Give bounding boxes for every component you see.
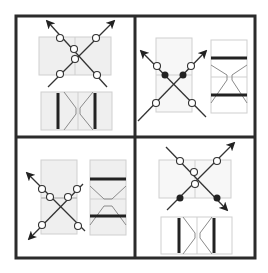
background-rect — [159, 160, 231, 198]
background-rect — [156, 38, 192, 112]
diagram — [0, 0, 268, 273]
inset-vertical-bars — [41, 92, 112, 130]
panel-bottom-right — [159, 143, 234, 254]
panel-top-left — [39, 21, 114, 130]
panel-top-right — [138, 38, 247, 121]
inset-horizontal-bars — [211, 40, 247, 113]
inset-vertical-bars — [161, 217, 232, 254]
panel-bottom-left — [27, 160, 126, 239]
inset-horizontal-bars — [90, 160, 126, 235]
